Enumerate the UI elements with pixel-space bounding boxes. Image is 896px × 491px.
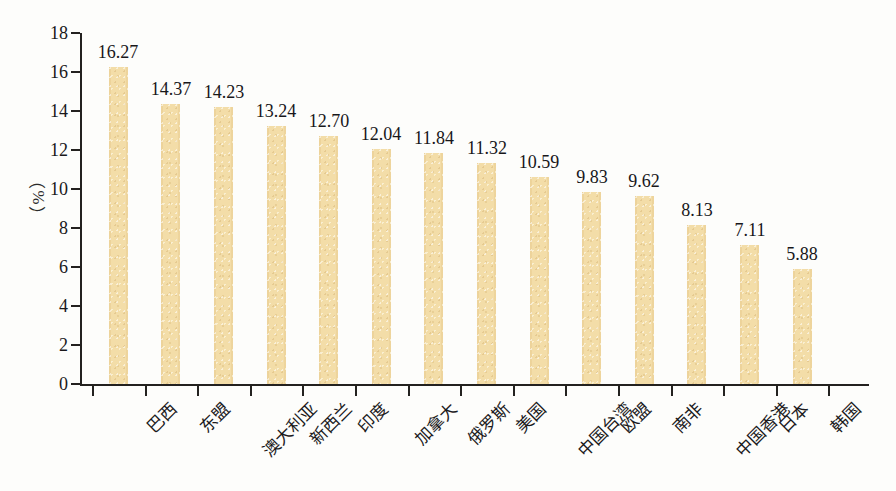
y-tick xyxy=(71,188,80,190)
bar xyxy=(372,149,391,384)
x-category-label: 韩国 xyxy=(824,396,866,438)
y-tick-label: 16 xyxy=(28,63,68,81)
bar xyxy=(530,177,549,384)
x-category-label-text: 加拿大 xyxy=(408,396,462,450)
x-tick xyxy=(723,386,725,396)
y-tick-label: 12 xyxy=(28,141,68,159)
x-category-label: 东盟 xyxy=(193,396,235,438)
x-category-label: 俄罗斯 xyxy=(461,396,515,450)
bar xyxy=(267,126,286,384)
y-tick-label: 14 xyxy=(28,102,68,120)
x-category-label-text: 俄罗斯 xyxy=(461,396,515,450)
y-tick-label: 4 xyxy=(28,297,68,315)
bar-chart: （%） 024681012141618 16.2714.3714.2313.24… xyxy=(0,0,896,491)
x-tick xyxy=(828,386,830,396)
y-tick xyxy=(71,383,80,385)
bar-value-label: 9.62 xyxy=(609,172,679,190)
y-tick xyxy=(71,266,80,268)
x-category-label: 巴西 xyxy=(140,396,182,438)
bar-value-label: 14.23 xyxy=(189,83,259,101)
bar xyxy=(477,163,496,384)
x-tick xyxy=(250,386,252,396)
y-tick xyxy=(71,149,80,151)
y-tick xyxy=(71,344,80,346)
bar-value-label: 8.13 xyxy=(662,201,732,219)
y-tick-label: 2 xyxy=(28,336,68,354)
x-tick xyxy=(671,386,673,396)
bar-value-label: 5.88 xyxy=(767,245,837,263)
x-category-label-text: 巴西 xyxy=(140,396,182,438)
y-tick-label: 0 xyxy=(28,375,68,393)
x-category-label: 美国 xyxy=(509,396,551,438)
bar xyxy=(635,196,654,384)
y-tick xyxy=(71,227,80,229)
x-tick xyxy=(197,386,199,396)
bar xyxy=(424,153,443,384)
x-tick xyxy=(92,386,94,396)
x-category-label-text: 南非 xyxy=(666,396,708,438)
x-tick xyxy=(460,386,462,396)
bar xyxy=(740,245,759,384)
y-tick xyxy=(71,305,80,307)
y-tick-label: 8 xyxy=(28,219,68,237)
x-tick xyxy=(513,386,515,396)
x-tick xyxy=(565,386,567,396)
x-category-label: 印度 xyxy=(351,396,393,438)
x-tick xyxy=(355,386,357,396)
x-tick xyxy=(408,386,410,396)
y-tick xyxy=(71,71,80,73)
y-tick-label: 10 xyxy=(28,180,68,198)
bar xyxy=(319,136,338,384)
bar-value-label: 16.27 xyxy=(83,43,153,61)
bar-value-label: 7.11 xyxy=(715,221,785,239)
bar xyxy=(582,192,601,384)
x-category-label: 南非 xyxy=(666,396,708,438)
y-axis-line xyxy=(80,33,82,386)
y-tick xyxy=(71,110,80,112)
x-tick xyxy=(145,386,147,396)
x-tick xyxy=(618,386,620,396)
y-tick-label: 18 xyxy=(28,24,68,42)
y-tick xyxy=(71,32,80,34)
x-category-label-text: 韩国 xyxy=(824,396,866,438)
bar xyxy=(109,67,128,384)
bar xyxy=(161,104,180,384)
bar xyxy=(687,225,706,384)
bar xyxy=(793,269,812,384)
x-category-label-text: 美国 xyxy=(509,396,551,438)
x-tick xyxy=(302,386,304,396)
y-tick-label: 6 xyxy=(28,258,68,276)
x-category-label: 加拿大 xyxy=(408,396,462,450)
bar xyxy=(214,107,233,384)
x-category-label-text: 印度 xyxy=(351,396,393,438)
x-category-label-text: 东盟 xyxy=(193,396,235,438)
x-tick xyxy=(776,386,778,396)
